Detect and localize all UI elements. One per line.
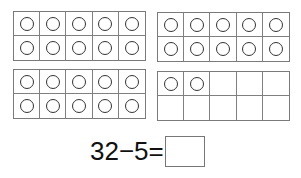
counter-circle-icon [216, 18, 230, 32]
ten-frame-cell [263, 72, 289, 96]
ten-frame-cell [158, 13, 184, 37]
counter-circle-icon [20, 99, 34, 113]
counter-circle-icon [98, 75, 112, 89]
counter-circle-icon [242, 42, 256, 56]
ten-frame-cell [93, 70, 119, 94]
ten-frame-4 [157, 71, 290, 121]
counter-circle-icon [98, 41, 112, 55]
counter-circle-icon [46, 17, 60, 31]
equation-text: 32−5= [90, 136, 164, 167]
counter-circle-icon [190, 77, 204, 91]
ten-frame-cell [119, 70, 145, 94]
ten-frame-cell [66, 94, 92, 118]
counter-circle-icon [46, 99, 60, 113]
ten-frame-cell [210, 37, 236, 61]
counter-circle-icon [72, 17, 86, 31]
ten-frame-cell [40, 70, 66, 94]
ten-frame-cell [14, 70, 40, 94]
counter-circle-icon [164, 42, 178, 56]
counter-circle-icon [125, 99, 139, 113]
counter-circle-icon [46, 41, 60, 55]
ten-frame-cell [66, 70, 92, 94]
ten-frame-cell [40, 94, 66, 118]
counter-circle-icon [190, 18, 204, 32]
counter-circle-icon [72, 41, 86, 55]
ten-frame-cell [66, 12, 92, 36]
counter-circle-icon [98, 17, 112, 31]
counter-circle-icon [72, 99, 86, 113]
counter-circle-icon [125, 41, 139, 55]
ten-frame-cell [119, 94, 145, 118]
ten-frame-cell [158, 96, 184, 120]
ten-frame-cell [237, 37, 263, 61]
ten-frame-1 [13, 11, 146, 61]
counter-circle-icon [190, 42, 204, 56]
ten-frame-cell [66, 36, 92, 60]
ten-frame-cell [210, 72, 236, 96]
counter-circle-icon [20, 17, 34, 31]
counter-circle-icon [164, 18, 178, 32]
ten-frame-cell [93, 12, 119, 36]
ten-frame-cell [237, 96, 263, 120]
counter-circle-icon [125, 75, 139, 89]
counter-circle-icon [216, 42, 230, 56]
ten-frame-cell [210, 13, 236, 37]
ten-frame-cell [184, 72, 210, 96]
counter-circle-icon [269, 42, 283, 56]
ten-frame-cell [184, 37, 210, 61]
ten-frame-cell [237, 72, 263, 96]
ten-frame-cell [263, 96, 289, 120]
ten-frame-2 [157, 12, 290, 62]
equation: 32−5= [90, 134, 205, 168]
ten-frame-cell [40, 12, 66, 36]
ten-frame-cell [263, 37, 289, 61]
ten-frame-cell [184, 13, 210, 37]
ten-frame-cell [93, 94, 119, 118]
counter-circle-icon [72, 75, 86, 89]
counter-circle-icon [125, 17, 139, 31]
ten-frame-cell [263, 13, 289, 37]
ten-frame-cell [14, 94, 40, 118]
ten-frame-cell [237, 13, 263, 37]
counter-circle-icon [46, 75, 60, 89]
ten-frame-3 [13, 69, 146, 119]
counter-circle-icon [164, 77, 178, 91]
ten-frame-cell [119, 36, 145, 60]
answer-box[interactable] [165, 136, 205, 167]
ten-frame-cell [210, 96, 236, 120]
ten-frame-cell [14, 36, 40, 60]
ten-frame-cell [184, 96, 210, 120]
ten-frame-cell [158, 37, 184, 61]
counter-circle-icon [20, 41, 34, 55]
counter-circle-icon [242, 18, 256, 32]
counter-circle-icon [98, 99, 112, 113]
ten-frame-cell [119, 12, 145, 36]
counter-circle-icon [269, 18, 283, 32]
ten-frame-cell [40, 36, 66, 60]
ten-frame-cell [158, 72, 184, 96]
counter-circle-icon [20, 75, 34, 89]
ten-frame-cell [93, 36, 119, 60]
ten-frame-cell [14, 12, 40, 36]
